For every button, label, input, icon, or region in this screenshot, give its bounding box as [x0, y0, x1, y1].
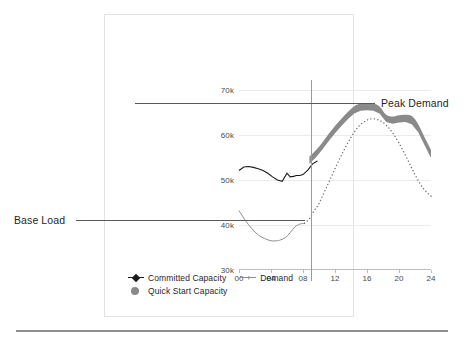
legend-row-1: Committed Capacity Demand — [128, 271, 307, 284]
legend-label-demand: Demand — [260, 273, 293, 283]
quick-start-capacity-band — [309, 103, 431, 164]
chart-legend: Committed Capacity Demand Quick Start Ca… — [128, 271, 307, 297]
demand-line-solid — [239, 211, 305, 241]
x-tick-12 — [335, 270, 336, 273]
legend-item-committed-capacity[interactable]: Committed Capacity — [128, 273, 226, 283]
cross-line-marker-icon — [240, 273, 256, 282]
x-axis-label-20: 20 — [394, 274, 403, 283]
x-tick-20 — [399, 270, 400, 273]
diamond-line-marker-icon — [128, 273, 144, 282]
base-load-label: Base Load — [14, 214, 65, 226]
peak-demand-label: Peak Demand — [381, 97, 449, 109]
plot-area: 70k 60k 50k 40k 30k 00 04 08 12 16 20 24 — [239, 90, 431, 270]
x-axis-label-16: 16 — [362, 274, 371, 283]
x-axis-label-24: 24 — [426, 274, 435, 283]
peak-demand-callout-line — [135, 103, 375, 104]
footer-divider — [16, 330, 448, 332]
legend-row-2: Quick Start Capacity — [128, 284, 307, 297]
legend-label-quick-start-capacity: Quick Start Capacity — [148, 286, 227, 296]
base-load-callout-line — [76, 220, 305, 221]
y-axis-label-50k: 50k — [221, 176, 234, 185]
committed-capacity-line — [239, 161, 317, 181]
y-axis-label-70k: 70k — [221, 86, 234, 95]
legend-item-demand[interactable]: Demand — [240, 273, 293, 283]
y-axis-label-40k: 40k — [221, 221, 234, 230]
series-plot — [239, 90, 431, 270]
filled-circle-marker-icon — [128, 286, 144, 295]
y-axis-label-60k: 60k — [221, 131, 234, 140]
x-axis-label-12: 12 — [330, 274, 339, 283]
current-time-marker-line — [311, 80, 312, 281]
x-tick-16 — [367, 270, 368, 273]
legend-item-quick-start-capacity[interactable]: Quick Start Capacity — [128, 286, 227, 296]
demand-line-dotted — [305, 119, 431, 223]
legend-label-committed-capacity: Committed Capacity — [148, 273, 226, 283]
x-tick-24 — [431, 270, 432, 273]
